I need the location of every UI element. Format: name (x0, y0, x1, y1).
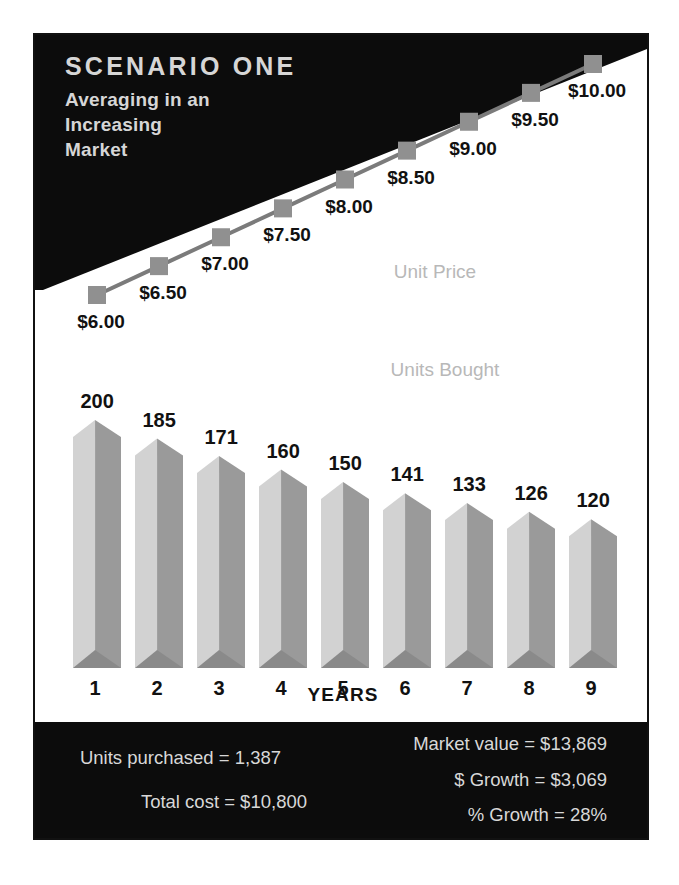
bar-column (197, 456, 245, 668)
stat-total-cost: Total cost = $10,800 (35, 793, 307, 812)
bar-column (445, 503, 493, 668)
price-point-label: $8.50 (387, 167, 435, 188)
bar-value-label: 126 (514, 482, 547, 504)
stat-market-value: Market value = $13,869 (335, 735, 607, 754)
stat-units-purchased: Units purchased = 1,387 (35, 749, 307, 768)
bar-column (383, 493, 431, 668)
price-point-label: $9.50 (511, 109, 559, 130)
bar-value-label: 141 (390, 463, 423, 485)
bar-column (569, 519, 617, 668)
bar-column (135, 439, 183, 668)
scenario-figure: SCENARIO ONE Averaging in an Increasing … (33, 33, 649, 840)
price-point-label: $9.00 (449, 138, 497, 159)
bar-value-label: 160 (266, 440, 299, 462)
bar-column (507, 512, 555, 668)
price-point-label: $6.00 (77, 311, 125, 332)
year-tick-label: 6 (400, 677, 411, 699)
stat-dollar-growth: $ Growth = $3,069 (335, 771, 607, 790)
bar-column (73, 420, 121, 668)
price-point-label: $6.50 (139, 282, 187, 303)
year-tick-label: 7 (462, 677, 473, 699)
bar-value-label: 150 (328, 452, 361, 474)
price-point-label: $10.00 (568, 80, 626, 101)
year-tick-label: 1 (90, 677, 101, 699)
bar-column (321, 482, 369, 668)
stat-percent-growth: % Growth = 28% (335, 806, 607, 825)
bar-value-label: 133 (452, 473, 485, 495)
unit-price-line-chart: $6.00$6.50$7.00$7.50$8.00$8.50$9.00$9.50… (35, 35, 647, 365)
bar-value-label: 120 (576, 489, 609, 511)
summary-footer: Units purchased = 1,387 Total cost = $10… (35, 722, 647, 838)
chart-area: SCENARIO ONE Averaging in an Increasing … (35, 35, 647, 722)
year-tick-label: 4 (276, 677, 288, 699)
price-point-label: $8.00 (325, 196, 373, 217)
unit-price-caption: Unit Price (394, 261, 476, 282)
bar-value-label: 200 (80, 390, 113, 412)
summary-left-column: Units purchased = 1,387 Total cost = $10… (35, 749, 335, 812)
price-point-label: $7.50 (263, 224, 311, 245)
bar-value-label: 171 (204, 426, 237, 448)
year-tick-label: 3 (214, 677, 225, 699)
bar-column (259, 470, 307, 668)
x-axis-title: YEARS (308, 684, 379, 705)
year-tick-label: 2 (152, 677, 163, 699)
year-tick-label: 9 (586, 677, 597, 699)
summary-right-column: Market value = $13,869 $ Growth = $3,069… (335, 735, 647, 825)
bar-value-label: 185 (142, 409, 175, 431)
price-point-label: $7.00 (201, 253, 249, 274)
year-tick-label: 8 (524, 677, 535, 699)
